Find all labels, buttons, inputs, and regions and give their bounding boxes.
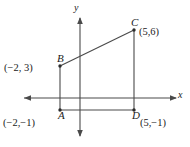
- coordinate-label-d: (5,−1): [140, 118, 166, 129]
- coordinate-label-a: (−2,−1): [3, 118, 35, 129]
- x-axis: [24, 95, 177, 101]
- vertex-label-d: D: [132, 110, 140, 121]
- x-axis-label: x: [178, 90, 182, 100]
- vertex-label-c: C: [131, 17, 138, 28]
- x-axis-arrow-right: [170, 95, 177, 101]
- coordinate-label-b: (−2, 3): [4, 63, 33, 74]
- vertex-dot-b: [58, 64, 61, 67]
- vertex-label-b: B: [57, 53, 64, 64]
- vertex-label-a: A: [58, 110, 65, 121]
- vertex-dot-c: [132, 28, 135, 31]
- coordinate-label-c: (5,6): [139, 27, 159, 38]
- vertex-markers: [58, 28, 135, 111]
- x-axis-arrow-left: [24, 95, 31, 101]
- y-axis-label: y: [74, 3, 78, 13]
- geometry-figure: y x B (−2, 3) C (5,6) A (−2,−1) D (5,−1): [0, 0, 190, 147]
- y-axis: [77, 17, 83, 137]
- segment-bc: [60, 30, 134, 66]
- y-axis-arrow-top: [77, 17, 83, 24]
- y-axis-arrow-bottom: [77, 130, 83, 137]
